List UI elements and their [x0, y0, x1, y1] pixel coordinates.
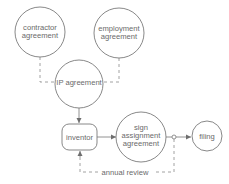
node-ip-agreement[interactable]: IP agreement [55, 60, 103, 108]
node-employment-agreement[interactable]: employment agreement [94, 8, 144, 58]
node-label: filing [199, 132, 215, 141]
node-label: agreement [101, 32, 138, 41]
ip-flow-diagram: annual review contractor agreement emplo… [0, 0, 229, 184]
junction-open-circle [172, 135, 176, 139]
edge-contractor-to-ip [40, 57, 55, 82]
node-inventor[interactable]: inventor [62, 124, 97, 150]
node-label: inventor [66, 133, 93, 142]
node-label: agreement [123, 139, 160, 148]
node-label: agreement [22, 31, 59, 40]
node-label: IP agreement [56, 78, 102, 87]
node-contractor-agreement[interactable]: contractor agreement [15, 7, 65, 57]
node-filing[interactable]: filing [192, 121, 222, 151]
node-sign-assignment-agreement[interactable]: sign assignment agreement [116, 112, 166, 162]
edge-employment-to-ip [103, 58, 119, 82]
annual-review-label: annual review [102, 168, 149, 177]
